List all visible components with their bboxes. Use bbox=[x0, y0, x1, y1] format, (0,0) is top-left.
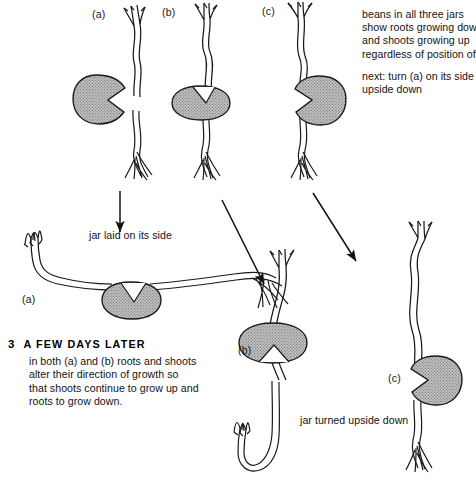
step-number: 3 bbox=[8, 338, 14, 350]
jar-diagram-side-a bbox=[24, 231, 288, 319]
bean-seed-icon bbox=[102, 282, 161, 319]
step-3-description: in both (a) and (b) roots and shoots alt… bbox=[29, 355, 199, 408]
root-icon bbox=[194, 112, 220, 180]
panel-label-top-c: (c) bbox=[262, 5, 275, 17]
root-icon bbox=[234, 381, 279, 471]
step-3-heading: 3 A FEW DAYS LATER bbox=[8, 338, 218, 350]
panel-label-inverted-b: (b) bbox=[238, 344, 251, 356]
jar-diagram-bottom-c bbox=[406, 221, 462, 472]
jar-diagram-inverted-b bbox=[234, 249, 307, 471]
step-title: A FEW DAYS LATER bbox=[23, 338, 145, 350]
panel-label-bottom-c: (c) bbox=[388, 372, 401, 384]
jar-diagram-top-a bbox=[73, 5, 152, 180]
arrow-to-unchanged-jar bbox=[313, 193, 356, 261]
arrow-to-inverted-jar bbox=[222, 200, 264, 284]
observation-note-paragraph-1: beans in all three jars show roots growi… bbox=[362, 8, 474, 61]
figure-canvas: (a) (b) (c) (a) (b) (c) beans in all thr… bbox=[0, 0, 476, 483]
panel-label-top-a: (a) bbox=[92, 8, 105, 20]
bean-seed-icon bbox=[411, 356, 462, 405]
bean-seed-icon bbox=[172, 86, 230, 120]
shoot-icon bbox=[124, 5, 145, 97]
root-icon bbox=[406, 400, 432, 472]
panel-label-side-a: (a) bbox=[22, 293, 35, 305]
caption-jar-upside-down: jar turned upside down bbox=[300, 414, 408, 427]
caption-jar-on-side: jar laid on its side bbox=[89, 229, 172, 242]
step-3-block: 3 A FEW DAYS LATER in both (a) and (b) r… bbox=[8, 338, 218, 408]
observation-note-paragraph-2: next: turn (a) on its side turn (b) upsi… bbox=[362, 70, 474, 96]
bean-seed-icon bbox=[73, 75, 125, 124]
jar-diagram-top-b bbox=[172, 3, 230, 180]
root-icon bbox=[150, 272, 288, 308]
bean-seed-icon bbox=[239, 323, 307, 363]
bean-seed-icon bbox=[295, 76, 346, 125]
observation-note: beans in all three jars show roots growi… bbox=[362, 8, 474, 96]
shoot-icon bbox=[195, 3, 217, 93]
jar-diagram-top-c bbox=[288, 2, 346, 180]
panel-label-top-b: (b) bbox=[162, 6, 175, 18]
root-icon bbox=[125, 110, 152, 180]
